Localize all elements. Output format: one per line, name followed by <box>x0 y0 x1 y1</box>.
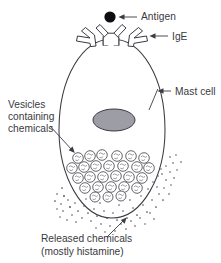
antigen-leader <box>119 14 138 19</box>
vesicle <box>103 192 113 202</box>
vesicles-label-line2: containing <box>8 111 55 122</box>
ige-label: IgE <box>172 31 188 42</box>
vesicle <box>132 162 143 173</box>
vesicle <box>73 153 84 164</box>
vesicle <box>116 191 126 201</box>
vesicles-label-line3: chemicals <box>8 123 53 134</box>
vesicle <box>104 161 115 172</box>
vesicle <box>137 173 148 184</box>
ige-receptor-group <box>77 25 148 47</box>
mast-cell-diagram: Antigen IgE Mast cell Vesicles containin… <box>0 0 221 263</box>
vesicle <box>79 162 90 173</box>
vesicle <box>85 172 96 183</box>
mast-cell-label: Mast cell <box>175 86 216 97</box>
vesicle <box>106 182 117 193</box>
vesicle <box>90 192 100 202</box>
antigen-dot <box>104 11 115 22</box>
ige-leader <box>150 33 169 38</box>
vesicle <box>73 173 84 184</box>
vesicle <box>132 183 143 194</box>
vesicle <box>126 151 137 162</box>
vesicle <box>111 171 122 182</box>
vesicle <box>118 161 129 172</box>
vesicle <box>112 151 123 162</box>
vesicle <box>124 172 135 183</box>
antigen-label: Antigen <box>141 11 176 22</box>
vesicle <box>93 182 104 193</box>
released-label-line1: Released chemicals <box>41 233 132 244</box>
vesicle <box>98 172 109 183</box>
vesicle <box>67 163 78 174</box>
ige-receptor-left <box>77 28 97 47</box>
ige-receptor-right <box>128 28 148 47</box>
vesicle <box>85 151 96 162</box>
cell-nucleus <box>93 109 135 131</box>
vesicle <box>144 163 155 174</box>
vesicle <box>139 153 150 164</box>
diagram-canvas: Antigen IgE Mast cell Vesicles containin… <box>0 0 221 263</box>
vesicle <box>80 183 91 194</box>
vesicle <box>97 150 108 161</box>
released-label-line2: (mostly histamine) <box>41 246 124 257</box>
vesicles-label-line1: Vesicles <box>8 99 45 110</box>
vesicle <box>91 161 102 172</box>
